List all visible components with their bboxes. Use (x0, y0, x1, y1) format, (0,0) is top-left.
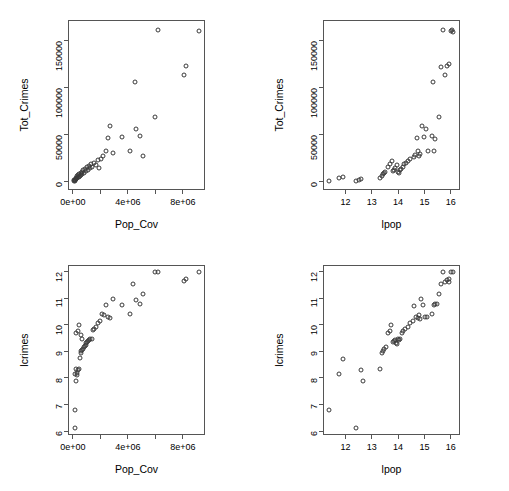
scatterplot-matrix-figure: 0e+004e+068e+06050000100000150000Pop_Cov… (0, 0, 509, 491)
panel-bottom-right-yaxis-title: lcrimes (273, 333, 285, 366)
panel-bottom-right-ytick (319, 404, 323, 405)
panel-bottom-right-point (412, 304, 417, 309)
panel-bottom-right-xticklabel: 16 (446, 443, 456, 452)
panel-bottom-right-point (424, 314, 429, 319)
panel-bottom-right-point (417, 317, 422, 322)
panel-bottom-right-yticklabel: 9 (310, 351, 319, 356)
panel-bottom-right-yticklabel: 8 (310, 378, 319, 383)
panel-bottom-right: 12131415166789101112lpoplcrimes (0, 0, 509, 491)
panel-bottom-right-point (378, 367, 383, 372)
panel-bottom-right-point (387, 328, 392, 333)
panel-bottom-right-point (418, 296, 423, 301)
panel-bottom-right-point (436, 292, 441, 297)
panel-bottom-right-ytick (319, 431, 323, 432)
panel-bottom-right-yticklabel: 12 (310, 272, 319, 282)
panel-bottom-right-point (430, 312, 435, 317)
panel-bottom-right-point (421, 302, 426, 307)
panel-bottom-right-point (336, 371, 341, 376)
panel-bottom-right-xticklabel: 12 (340, 443, 350, 452)
panel-bottom-right-point (450, 270, 455, 275)
panel-bottom-right-xtick (398, 435, 399, 439)
panel-bottom-right-point (447, 280, 452, 285)
panel-bottom-right-point (326, 407, 331, 412)
panel-bottom-right-xticklabel: 14 (393, 443, 403, 452)
panel-bottom-right-point (360, 379, 365, 384)
panel-bottom-right-point (440, 269, 445, 274)
panel-bottom-right-point (435, 302, 440, 307)
panel-bottom-right-plot-area (323, 265, 460, 435)
panel-bottom-right-ytick (319, 351, 323, 352)
panel-bottom-right-xtick (371, 435, 372, 439)
panel-bottom-right-ytick (319, 298, 323, 299)
panel-bottom-right-xtick (424, 435, 425, 439)
panel-bottom-right-ytick (319, 324, 323, 325)
panel-bottom-right-yticklabel: 10 (310, 325, 319, 335)
panel-bottom-right-point (359, 368, 364, 373)
panel-bottom-right-xtick (345, 435, 346, 439)
panel-bottom-right-ytick (319, 271, 323, 272)
panel-bottom-right-point (341, 356, 346, 361)
panel-bottom-right-point (353, 426, 358, 431)
panel-bottom-right-yticklabel: 7 (310, 404, 319, 409)
panel-bottom-right-point (398, 336, 403, 341)
panel-bottom-right-xaxis-title: lpop (382, 463, 402, 475)
panel-bottom-right-xticklabel: 13 (367, 443, 377, 452)
panel-bottom-right-point (389, 322, 394, 327)
panel-bottom-right-yticklabel: 6 (310, 431, 319, 436)
panel-bottom-right-point (384, 345, 389, 350)
panel-bottom-right-xticklabel: 15 (419, 443, 429, 452)
panel-bottom-right-xtick (450, 435, 451, 439)
panel-bottom-right-ytick (319, 377, 323, 378)
panel-bottom-right-yticklabel: 11 (310, 298, 319, 307)
